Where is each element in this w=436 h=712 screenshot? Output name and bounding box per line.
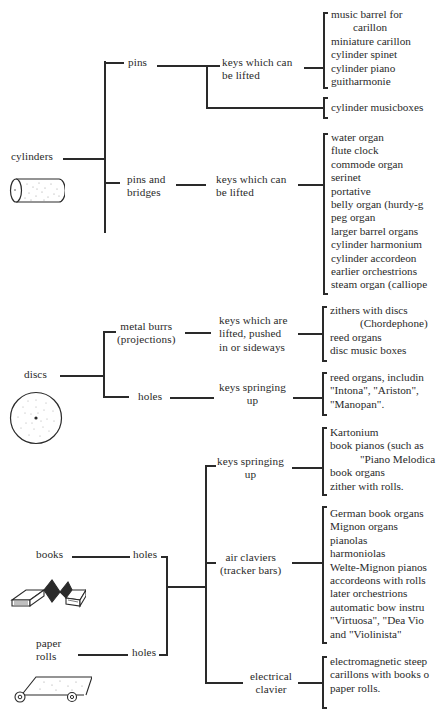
mechanism-line: keys springing <box>217 455 284 468</box>
disc-icon <box>8 390 64 446</box>
mechanism-line: keys which are <box>219 314 288 327</box>
connector-line <box>292 467 323 469</box>
bracket <box>322 506 327 508</box>
instrument-list: water organ flute clock commode organ se… <box>331 131 427 292</box>
mechanism-line: be lifted <box>216 186 286 199</box>
instrument-item: later orchestrions <box>330 587 427 600</box>
instrument-item: pianolas <box>330 534 427 547</box>
connector-line <box>60 375 104 377</box>
instrument-item: "Intona", "Ariston", <box>330 384 424 397</box>
instrument-list: zithers with discs (Chordephone) reed or… <box>330 304 428 358</box>
instrument-item: guitharmonie <box>331 75 411 88</box>
instrument-list: reed organs, includin "Intona", "Ariston… <box>330 371 424 411</box>
mechanism-keys-lifted-pushed: keys which are lifted, pushed in or side… <box>219 314 288 354</box>
instrument-item: Kartonium <box>330 426 435 439</box>
instrument-item: accordeons with rolls <box>330 574 427 587</box>
mechanism-line: be lifted <box>222 69 292 82</box>
instrument-item: cylinder harmonium <box>331 238 427 251</box>
connector-line <box>103 396 129 398</box>
instrument-item: book organs <box>330 466 435 479</box>
instrument-item: portative <box>331 185 427 198</box>
mechanism-line: (tracker bars) <box>220 564 281 577</box>
instrument-item: carillons with books o <box>330 668 429 681</box>
bracket <box>322 427 324 495</box>
instrument-item: earlier orchestrions <box>331 265 427 278</box>
branch-holes-disc-label: holes <box>138 390 162 403</box>
connector-line <box>205 562 216 564</box>
connector-line <box>170 397 214 399</box>
instrument-item: paper rolls. <box>330 682 429 695</box>
connector-line <box>206 65 208 108</box>
mechanism-line: clavier <box>250 683 292 696</box>
books-holes-label: holes <box>133 548 157 561</box>
bracket <box>323 12 328 14</box>
bracket <box>323 97 328 99</box>
instrument-item: Mignon organs <box>330 520 427 533</box>
mechanism-line: electrical <box>250 670 292 683</box>
instrument-item: (Chordephone) <box>330 317 428 330</box>
instrument-item: music barrel for <box>331 8 411 21</box>
instrument-item: carillon <box>331 21 411 34</box>
instrument-item: automatic bow instru <box>330 601 427 614</box>
mechanism-line: keys which can <box>222 56 292 69</box>
connector-line <box>293 397 323 399</box>
bracket <box>322 656 327 658</box>
instrument-item: cylinder musicboxes <box>331 101 423 114</box>
instrument-item: commode organ <box>331 158 427 171</box>
instrument-item: disc music boxes <box>330 344 428 357</box>
connector-line <box>205 682 243 684</box>
branch-line: bridges <box>127 186 165 199</box>
instrument-item: peg organ <box>331 211 427 224</box>
instrument-item: "Virtuosa", "Dea Vio <box>330 614 427 627</box>
instrument-list: cylinder musicboxes <box>331 101 423 114</box>
connector-line <box>298 184 324 186</box>
branch-pins-label: pins <box>128 56 147 69</box>
instrument-item: reed organs <box>330 331 428 344</box>
connector-line <box>72 556 130 558</box>
bracket <box>322 372 324 415</box>
connector-line <box>205 465 207 683</box>
branch-pins-bridges-label: pins and bridges <box>127 173 165 200</box>
source-cylinders-label: cylinders <box>11 150 53 163</box>
bracket <box>323 133 325 294</box>
bracket <box>322 707 327 709</box>
mechanism-line: in or sideways <box>219 341 288 354</box>
instrument-item: cylinder accordeon <box>331 252 427 265</box>
connector-line <box>176 184 206 186</box>
connector-line <box>185 332 211 334</box>
source-paper-rolls-label: paper rolls <box>36 637 61 664</box>
bracket <box>322 427 327 429</box>
instrument-item: harmoniolas <box>330 547 427 560</box>
mechanism-keys-lifted-1: keys which can be lifted <box>222 56 292 83</box>
connector-line <box>206 65 220 67</box>
instrument-item: cylinder piano <box>331 62 411 75</box>
bracket <box>322 306 327 308</box>
mechanism-air-claviers: air claviers (tracker bars) <box>220 551 281 578</box>
connector-line <box>63 158 105 160</box>
bracket <box>322 306 324 361</box>
instrument-item: miniature carillon <box>331 35 411 48</box>
mechanism-line: keys which can <box>216 173 286 186</box>
instrument-item: serinet <box>331 171 427 184</box>
bracket <box>322 642 327 644</box>
connector-line <box>298 333 324 335</box>
connector-line <box>104 62 124 64</box>
bracket <box>323 97 325 118</box>
connector-line <box>166 556 168 656</box>
mechanism-line: up <box>219 394 286 407</box>
bracket <box>323 293 328 295</box>
bracket <box>323 117 328 119</box>
branch-line: metal burrs <box>117 320 175 333</box>
instrument-item: reed organs, includin <box>330 371 424 384</box>
rolls-holes-label: holes <box>132 646 156 659</box>
bracket <box>323 12 325 88</box>
bracket <box>322 414 327 416</box>
bracket <box>322 656 324 708</box>
branch-metal-burrs-label: metal burrs (projections) <box>117 320 175 347</box>
connector-line <box>298 682 323 684</box>
connector-line <box>166 586 206 588</box>
bracket <box>322 494 327 496</box>
mechanism-line: air claviers <box>220 551 281 564</box>
mechanism-line: lifted, pushed <box>219 327 288 340</box>
mechanism-keys-lifted-2: keys which can be lifted <box>216 173 286 200</box>
